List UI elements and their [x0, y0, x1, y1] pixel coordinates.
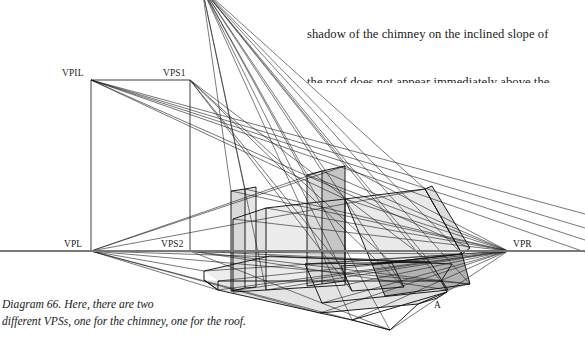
figure-caption: Diagram 66. Here, there are two differen…: [2, 296, 332, 330]
label-vpl: VPL: [64, 239, 82, 249]
page-canvas: VPIL VPS1 VPL VPS2 VPR A shadow of the c…: [0, 0, 585, 338]
body-paragraph: shadow of the chimney on the inclined sl…: [307, 0, 585, 83]
label-vpr: VPR: [513, 239, 532, 249]
caption-line-1: Diagram 66. Here, there are two: [2, 296, 332, 313]
label-vps2: VPS2: [161, 239, 184, 249]
house-pier-left-face: [245, 187, 256, 288]
vp-construction-rectangle: [91, 80, 190, 251]
label-vps1: VPS1: [163, 68, 186, 78]
body-line-2: the roof does not appear immediately abo…: [307, 74, 585, 83]
label-point-a: A: [434, 300, 441, 310]
caption-line-2: different VPSs, one for the chimney, one…: [2, 313, 332, 330]
body-line-1: shadow of the chimney on the inclined sl…: [307, 26, 585, 42]
label-vpil: VPIL: [62, 68, 84, 78]
